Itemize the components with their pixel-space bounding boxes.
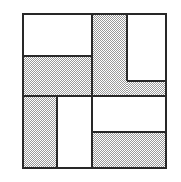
stroke-h-bottom-right <box>92 131 165 133</box>
tile-bottom-center-plain <box>57 96 92 167</box>
tile-bottom-right-shaded <box>92 132 165 167</box>
stroke-v-center <box>91 15 93 167</box>
stroke-h-middle <box>24 95 165 97</box>
tile-right-upper-shaded <box>127 81 165 96</box>
tile-bottom-left-shaded <box>24 96 57 167</box>
stroke-v-top-right <box>126 15 128 81</box>
tile-bottom-right-plain <box>92 96 165 132</box>
stroke-v-bottom-left <box>56 96 58 167</box>
stroke-h-upper-left <box>24 55 92 57</box>
tiling-figure <box>0 0 181 182</box>
tile-upper-mid-shaded <box>24 56 92 96</box>
tile-top-right-plain <box>127 15 165 81</box>
tile-top-center-shaded <box>92 15 127 96</box>
tile-top-left-plain <box>24 15 92 56</box>
stroke-h-right-upper <box>127 80 165 82</box>
